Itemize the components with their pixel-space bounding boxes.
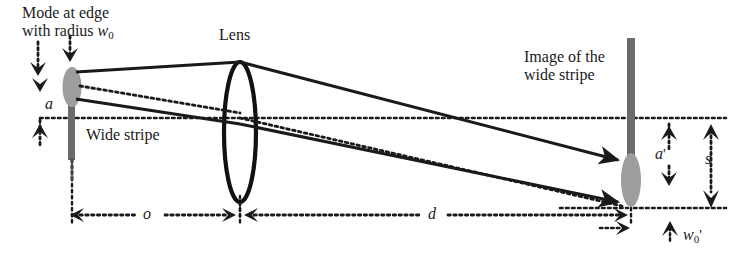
chief-ray-dotted xyxy=(80,86,240,113)
mode-at-edge-label-line2: with radius w0 xyxy=(22,22,114,42)
mode-at-edge-label-line1: Mode at edge xyxy=(22,4,109,23)
image-bottom-left-pointer xyxy=(600,221,630,235)
ray-upper-object-to-lens xyxy=(76,62,240,72)
dimension-o-label: o xyxy=(143,205,151,224)
image-mode-spot xyxy=(621,153,641,207)
image-of-wide-stripe-label-line2: wide stripe xyxy=(524,66,595,85)
lens-label: Lens xyxy=(219,26,250,45)
dimension-w0-prime-label: w0' xyxy=(683,226,702,246)
dimension-w0-prime-arrows xyxy=(662,221,678,243)
dimension-a-label: a xyxy=(45,95,53,114)
dimension-w0-prime-symbol: w xyxy=(683,226,694,243)
image-wide-stripe xyxy=(627,38,635,170)
dimension-a-prime-mark: ' xyxy=(663,146,666,162)
dimension-a-prime-label: a' xyxy=(655,145,666,164)
dimension-d-arrows xyxy=(244,208,628,222)
lens-ellipse xyxy=(224,62,256,202)
image-of-wide-stripe-label-line1: Image of the xyxy=(524,48,605,67)
mode-radius-text: with radius xyxy=(22,22,98,39)
optical-diagram-figure: Mode at edge with radius w0 Lens Wide st… xyxy=(0,0,733,258)
ray-lower-lens-to-image xyxy=(240,124,618,202)
mode-pointer-arrow-left xyxy=(30,42,46,76)
dimension-w0-prime-mark: ' xyxy=(699,227,702,243)
dimension-d-label: d xyxy=(428,205,436,224)
dimension-o-arrows xyxy=(70,208,236,222)
mode-radius-symbol: w xyxy=(98,22,109,39)
wide-stripe-label: Wide stripe xyxy=(86,126,160,145)
dimension-s-label: s xyxy=(705,150,711,169)
ray-lower-object-to-lens xyxy=(76,99,240,124)
dimension-a-prime-symbol: a xyxy=(655,145,663,162)
mode-radius-subscript: 0 xyxy=(108,29,114,41)
